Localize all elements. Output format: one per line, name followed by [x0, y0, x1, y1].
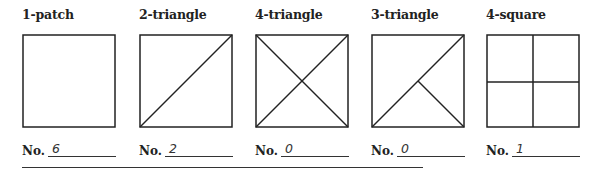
pattern-title: 1-patch [22, 7, 74, 22]
count-underline: 1 [512, 144, 580, 157]
count-value: 0 [401, 141, 409, 156]
count-value: 1 [516, 141, 524, 156]
count-underline: 2 [165, 144, 233, 157]
count-underline: 0 [281, 144, 349, 157]
count-value: 6 [52, 141, 60, 156]
pattern-3-triangle: 3-triangle No. 0 [371, 0, 465, 165]
count-field: No. 0 [255, 144, 349, 158]
pattern-2-triangle: 2-triangle No. 2 [139, 0, 233, 165]
pattern-title: 4-square [486, 7, 546, 22]
square-icon [22, 34, 116, 128]
one-diagonal-square-icon [139, 34, 233, 128]
pattern-4-triangle: 4-triangle No. 0 [255, 0, 349, 165]
pattern-4-square: 4-square No. 1 [486, 0, 580, 165]
bottom-rule [22, 167, 423, 168]
pattern-1-patch: 1-patch No. 6 [22, 0, 116, 165]
pattern-title: 3-triangle [371, 7, 439, 22]
count-field: No. 2 [139, 144, 233, 158]
count-field: No. 1 [486, 144, 580, 158]
quartered-square-icon [486, 34, 580, 128]
count-label: No. [22, 144, 45, 158]
count-field: No. 0 [371, 144, 465, 158]
pattern-title: 2-triangle [139, 7, 207, 22]
count-field: No. 6 [22, 144, 116, 158]
count-label: No. [486, 144, 509, 158]
two-diagonals-square-icon [255, 34, 349, 128]
count-underline: 6 [48, 144, 116, 157]
count-label: No. [255, 144, 278, 158]
pattern-title: 4-triangle [255, 7, 323, 22]
count-value: 0 [285, 141, 293, 156]
count-label: No. [139, 144, 162, 158]
diagonal-half-square-icon [371, 34, 465, 128]
count-value: 2 [169, 141, 177, 156]
count-underline: 0 [397, 144, 465, 157]
count-label: No. [371, 144, 394, 158]
